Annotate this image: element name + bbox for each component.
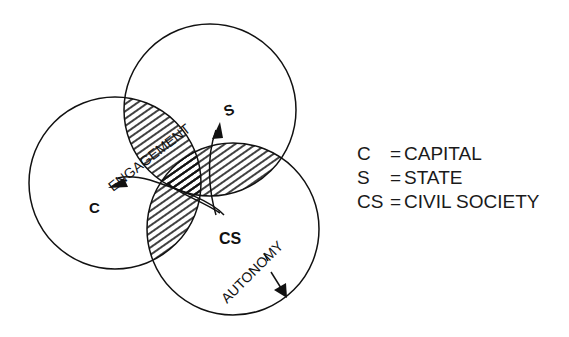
legend-item-state: S = STATE: [357, 166, 540, 190]
legend-key: S: [357, 166, 390, 190]
label-cs: CS: [219, 230, 242, 247]
legend: C = CAPITAL S = STATE CS = CIVIL SOCIETY: [357, 142, 540, 214]
legend-value: STATE: [404, 166, 462, 190]
autonomy-arrowhead-icon: [274, 283, 287, 298]
autonomy-arrow-shaft: [271, 272, 281, 288]
legend-key: C: [357, 142, 390, 166]
legend-key: CS: [357, 190, 390, 214]
label-s: S: [221, 100, 236, 119]
legend-equals: =: [390, 166, 404, 190]
legend-item-capital: C = CAPITAL: [357, 142, 540, 166]
label-autonomy: AUTONOMY: [218, 237, 287, 306]
legend-value: CAPITAL: [404, 142, 482, 166]
legend-value: CIVIL SOCIETY: [404, 190, 540, 214]
label-c: C: [89, 199, 100, 216]
legend-equals: =: [390, 142, 404, 166]
legend-equals: =: [390, 190, 404, 214]
legend-item-civil-society: CS = CIVIL SOCIETY: [357, 190, 540, 214]
arrowhead-to-s-icon: [212, 122, 223, 139]
